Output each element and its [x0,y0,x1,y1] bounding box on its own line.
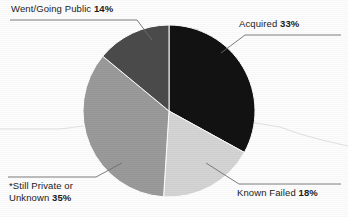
label-failed-percent: 18% [299,187,318,198]
label-acquired-percent: 33% [280,18,299,29]
pie-chart-figure: Went/Going Public 14% Acquired 33% Known… [0,0,348,217]
pie-slices [83,25,255,197]
label-private-line1: *Still Private or [9,180,73,191]
label-public-text: Went/Going Public [11,3,91,14]
label-failed-text: Known Failed [237,187,296,198]
label-went-going-public: Went/Going Public 14% [11,3,113,15]
label-private-line2-text: Unknown [9,192,49,203]
label-private-percent: 35% [52,192,71,203]
label-public-percent: 14% [94,3,113,14]
pie-graphic [83,25,255,197]
label-known-failed: Known Failed 18% [237,187,318,199]
label-acquired: Acquired 33% [239,18,299,30]
label-acquired-text: Acquired [239,18,277,29]
label-still-private: *Still Private or Unknown 35% [9,180,73,204]
